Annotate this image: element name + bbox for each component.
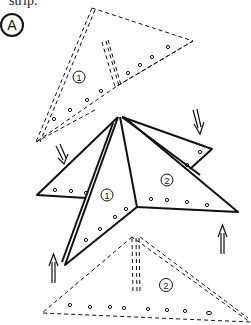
arrow-down-right-icon <box>193 109 204 134</box>
bottom-piece-holes <box>68 303 211 314</box>
top-triangle-piece <box>36 8 193 142</box>
arrow-up-right-icon <box>218 225 227 254</box>
assembled-star <box>37 117 238 265</box>
svg-text:2: 2 <box>163 281 168 291</box>
arrow-down-left-icon <box>56 144 68 164</box>
step-label: A <box>7 17 17 33</box>
star-assembly-diagram: A 1 <box>0 0 251 325</box>
star-holes <box>53 150 208 241</box>
svg-text:1: 1 <box>104 191 109 201</box>
bottom-piece-number-badge: 2 <box>160 279 173 292</box>
star-right-number-badge: 2 <box>161 174 173 186</box>
svg-text:1: 1 <box>76 73 81 83</box>
top-piece-number-badge: 1 <box>73 71 85 83</box>
arrow-up-left-icon <box>49 254 58 283</box>
svg-text:2: 2 <box>164 176 169 186</box>
step-label-badge: A <box>1 14 23 36</box>
star-left-number-badge: 1 <box>101 189 113 201</box>
